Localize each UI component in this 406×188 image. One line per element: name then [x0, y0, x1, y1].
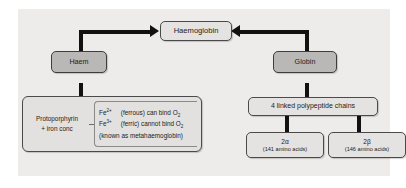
node-haem[interactable]: Haem	[51, 51, 107, 73]
protoporphyrin-label: Protoporphyrin + iron conc	[25, 114, 89, 133]
connector-globin-to-chains-box	[305, 83, 309, 97]
node-chain-beta[interactable]: 2β (146 amino acids)	[328, 132, 406, 158]
fe3-o2-subscript: 2	[181, 125, 184, 130]
fe3-ion: Fe3+	[99, 119, 119, 128]
metahaemoglobin-note: (known as metahaemoglobin)	[99, 131, 194, 140]
node-polypeptide-chains[interactable]: 4 linked polypeptide chains	[248, 97, 378, 116]
node-globin[interactable]: Globin	[273, 51, 337, 73]
node-polypeptide-chains-label: 4 linked polypeptide chains	[271, 102, 355, 110]
connector-chains-to-alpha	[285, 116, 289, 132]
fe2-text: (ferrous) can bind O	[121, 109, 178, 116]
node-chain-beta-sublabel: (146 amino acids)	[345, 146, 389, 153]
fe2-o2-subscript: 2	[178, 113, 181, 118]
fe3-text: (ferric) cannot bind O	[121, 121, 181, 128]
arrowhead-globin-to-haemoglobin	[231, 25, 240, 37]
protoporphyrin-line-2: + iron conc	[25, 124, 89, 134]
protoporphyrin-line-1: Protoporphyrin	[25, 114, 89, 124]
node-chain-alpha-label: 2α	[281, 138, 288, 146]
fe3-charge: 3+	[106, 119, 111, 124]
connector-haem-horizontal	[79, 30, 151, 34]
fe2-charge: 2+	[106, 108, 111, 113]
node-haem-detail[interactable]: Protoporphyrin + iron conc Fe2+ (ferrous…	[22, 96, 202, 152]
node-haemoglobin[interactable]: Haemoglobin	[160, 21, 232, 41]
iron-oxidation-states-box: Fe2+ (ferrous) can bind O2 Fe3+ (ferric)…	[94, 101, 197, 147]
connector-globin-horizontal	[240, 30, 309, 34]
node-globin-label: Globin	[295, 58, 316, 66]
fe2-ion: Fe2+	[99, 108, 119, 117]
node-chain-beta-label: 2β	[363, 138, 370, 146]
fe3-row: Fe3+ (ferric) cannot bind O2	[99, 119, 194, 131]
node-chain-alpha[interactable]: 2α (141 amino acids)	[246, 132, 324, 158]
node-haem-label: Haem	[69, 58, 88, 66]
connector-chains-to-beta	[357, 116, 361, 132]
arrowhead-haem-to-haemoglobin	[150, 25, 159, 37]
node-chain-alpha-sublabel: (141 amino acids)	[263, 146, 307, 153]
fe2-row: Fe2+ (ferrous) can bind O2	[99, 108, 194, 120]
node-haemoglobin-label: Haemoglobin	[174, 27, 219, 36]
